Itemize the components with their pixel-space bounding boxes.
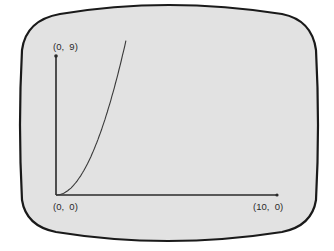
label-x-max: (10, 0): [253, 201, 283, 212]
y-axis-endpoint-dot: [54, 54, 58, 58]
label-origin: (0, 0): [53, 201, 78, 212]
label-y-max: (0, 9): [53, 41, 78, 52]
crt-screen: (0, 9) (0, 0) (10, 0): [0, 0, 334, 251]
x-axis-endpoint-dot: [275, 193, 278, 196]
